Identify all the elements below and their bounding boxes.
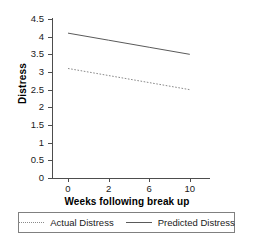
y-tick-mark [48,37,52,38]
y-tick-mark [48,90,52,91]
y-tick-mark [48,107,52,108]
legend-entry-predicted-distress: Predicted Distress [126,218,235,228]
x-tick-label: 2 [94,184,124,194]
x-tick-mark [68,178,69,182]
y-tick-mark [48,178,52,179]
y-tick-mark [48,54,52,55]
series-line-predicted-distress [68,33,190,54]
y-tick-mark [48,160,52,161]
x-tick-label: 0 [53,184,83,194]
x-tick-mark [190,178,191,182]
chart-legend: Actual Distress Predicted Distress [18,212,235,233]
y-tick-mark [48,125,52,126]
legend-swatch-dotted-icon [18,219,44,226]
y-tick-label: 0 [0,173,44,183]
x-tick-mark [109,178,110,182]
y-tick-label: 4.5 [0,14,44,24]
x-tick-mark [149,178,150,182]
y-tick-mark [48,19,52,20]
y-tick-mark [48,143,52,144]
x-axis-title: Weeks following break up [0,196,254,207]
x-tick-label: 6 [134,184,164,194]
legend-swatch-solid-icon [126,219,152,226]
series-line-actual-distress [68,68,190,89]
y-tick-mark [48,72,52,73]
y-tick-label: 1 [0,138,44,148]
y-axis-title: Distress [17,34,28,134]
legend-entry-actual-distress: Actual Distress [18,218,113,228]
y-tick-label: 0.5 [0,155,44,165]
legend-label-actual-distress: Actual Distress [50,218,113,228]
chart-figure: 4.543.532.521.510.50 02610 Distress Week… [0,0,254,247]
legend-label-predicted-distress: Predicted Distress [158,218,235,228]
x-tick-label: 10 [175,184,205,194]
y-axis-line [52,18,53,179]
x-axis-line [52,178,210,179]
